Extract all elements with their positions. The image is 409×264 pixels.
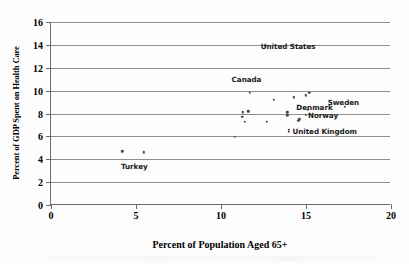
gridline-horizontal bbox=[51, 182, 390, 183]
y-axis-tick-label: 16 bbox=[33, 17, 43, 28]
gridline-horizontal bbox=[51, 68, 390, 69]
gridline-horizontal bbox=[51, 159, 390, 160]
point-annotation: Norway bbox=[308, 110, 338, 119]
data-point bbox=[249, 92, 251, 94]
y-axis-tick bbox=[46, 114, 51, 115]
gridline-horizontal bbox=[51, 136, 390, 137]
y-axis-tick bbox=[46, 136, 51, 137]
x-axis-tick bbox=[391, 204, 392, 209]
scatter-chart-figure: Percent of GDP Spent on Health Care 0246… bbox=[0, 0, 409, 264]
data-point bbox=[266, 120, 268, 122]
data-point bbox=[241, 116, 243, 118]
data-point bbox=[142, 151, 144, 153]
x-axis-tick-label: 5 bbox=[134, 210, 139, 221]
y-axis-title: Percent of GDP Spent on Health Care bbox=[11, 13, 21, 213]
y-axis-tick bbox=[46, 159, 51, 160]
y-axis-tick-label: 8 bbox=[38, 108, 43, 119]
x-axis-tick bbox=[306, 204, 307, 209]
y-axis-tick-label: 2 bbox=[38, 177, 43, 188]
y-axis-tick-label: 14 bbox=[33, 39, 43, 50]
x-axis-tick bbox=[136, 204, 137, 209]
x-axis-tick-label: 10 bbox=[216, 210, 226, 221]
y-axis-tick-label: 6 bbox=[38, 131, 43, 142]
x-axis-tick bbox=[51, 204, 52, 209]
gridline-horizontal bbox=[51, 45, 390, 46]
y-axis-tick bbox=[46, 22, 51, 23]
x-axis-title: Percent of Population Aged 65+ bbox=[50, 239, 390, 250]
plot-area: 024681012141605101520United StatesCanada… bbox=[50, 22, 390, 205]
point-annotation: United Kingdom bbox=[292, 126, 357, 135]
point-annotation: United States bbox=[261, 42, 316, 51]
data-point bbox=[121, 150, 123, 152]
x-axis-tick-label: 15 bbox=[301, 210, 311, 221]
point-annotation: Canada bbox=[232, 74, 262, 83]
x-axis-tick-label: 20 bbox=[386, 210, 396, 221]
y-axis-tick bbox=[46, 45, 51, 46]
y-axis-tick bbox=[46, 68, 51, 69]
data-point bbox=[247, 110, 249, 112]
y-axis-tick bbox=[46, 182, 51, 183]
data-point bbox=[288, 131, 290, 133]
x-axis-tick bbox=[221, 204, 222, 209]
y-axis-tick-label: 0 bbox=[38, 200, 43, 211]
plot-inner: 024681012141605101520United StatesCanada… bbox=[51, 22, 390, 204]
gridline-horizontal bbox=[51, 91, 390, 92]
y-axis-tick-label: 10 bbox=[33, 85, 43, 96]
y-axis-tick-label: 4 bbox=[38, 154, 43, 165]
y-axis-tick bbox=[46, 91, 51, 92]
data-point bbox=[244, 121, 246, 123]
data-point bbox=[272, 99, 274, 101]
gridline-horizontal bbox=[51, 114, 390, 115]
data-point bbox=[293, 96, 295, 98]
scan-artifact bbox=[0, 256, 409, 261]
gridline-horizontal bbox=[51, 22, 390, 23]
point-annotation: Turkey bbox=[121, 162, 148, 171]
data-point bbox=[305, 94, 307, 96]
data-point bbox=[297, 120, 299, 122]
x-axis-tick-label: 0 bbox=[49, 210, 54, 221]
data-point bbox=[308, 92, 310, 94]
y-axis-tick-label: 12 bbox=[33, 62, 43, 73]
